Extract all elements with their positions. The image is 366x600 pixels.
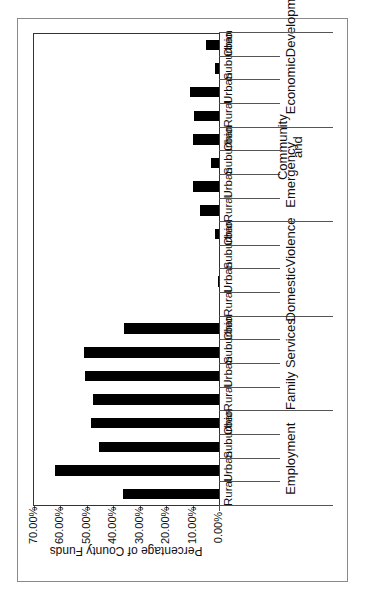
bar [206, 40, 219, 51]
subcategory-label: Ohio [222, 222, 238, 246]
y-tick-label: 30.00% [133, 512, 145, 544]
bar [91, 418, 219, 429]
y-tick-label: 10.00% [186, 512, 198, 544]
subcategory-label: Urban [222, 175, 238, 199]
figure-caption [351, 20, 361, 580]
bar [193, 134, 219, 145]
y-tick-label: 20.00% [159, 512, 171, 544]
y-tick-label: 50.00% [80, 512, 92, 544]
subcategory-label: Rural [222, 293, 238, 317]
subcategory-label: Rural [222, 482, 238, 506]
group-separator [219, 32, 333, 33]
subcategory-label: Ohio [222, 33, 238, 57]
bar [55, 465, 219, 476]
bar [99, 442, 219, 453]
group-label: Community andEconomicDevelopment [255, 33, 325, 128]
bar [218, 276, 219, 287]
subcategory-label: Urban [222, 80, 238, 104]
plot-area [33, 33, 219, 506]
group-label: Family Services [255, 317, 325, 412]
subcategory-label: Ohio [222, 317, 238, 341]
subcategory-label: Ohio [222, 411, 238, 435]
y-tick [219, 506, 220, 511]
y-tick-label: 70.00% [27, 512, 39, 544]
subcategory-label: Urban [222, 270, 238, 294]
y-tick-label: 0.00% [212, 512, 224, 544]
subcategory-label: Suburban [222, 435, 238, 459]
subcategory-label: Rural [222, 199, 238, 223]
y-tick-label: 60.00% [53, 512, 65, 544]
bar [200, 205, 219, 216]
bar [85, 371, 219, 382]
subcategory-label: Suburban [222, 151, 238, 175]
bar [215, 229, 219, 240]
subcategory-label: Urban [222, 459, 238, 483]
group-label: DomesticViolence [255, 222, 325, 317]
y-tick-label: 40.00% [106, 512, 118, 544]
y-axis-title: Percentage of County Funds [26, 542, 226, 558]
bar [193, 181, 219, 192]
bar [190, 87, 219, 98]
subcategory-label: Ohio [222, 128, 238, 152]
bar [123, 489, 219, 500]
bar [124, 323, 219, 334]
subcategory-label: Suburban [222, 340, 238, 364]
group-label: Employment [255, 411, 325, 506]
subcategory-label: Suburban [222, 246, 238, 270]
bar [215, 63, 219, 74]
subcategory-label: Rural [222, 388, 238, 412]
bar [211, 158, 219, 169]
subcategory-label: Urban [222, 364, 238, 388]
chart-stage: Percentage of County Funds 0.00%10.00%20… [0, 0, 366, 600]
bar [194, 111, 219, 122]
subcategory-label: Suburban [222, 57, 238, 81]
subcategory-label: Rural [222, 104, 238, 128]
bar [84, 347, 219, 358]
bar [93, 394, 219, 405]
